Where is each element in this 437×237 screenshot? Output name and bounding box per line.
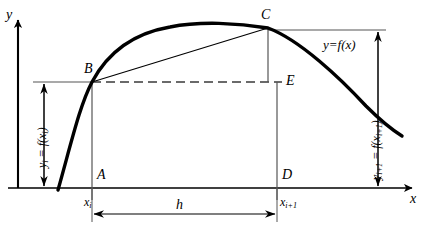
point-label-c: C: [261, 8, 270, 22]
y-axis-label: y: [6, 8, 12, 22]
chord-bc: [92, 28, 268, 82]
dimension-label-yi-tail: ): [35, 127, 49, 131]
curve-function-label: y=f(x): [323, 38, 356, 51]
dimension-label-yi-base: y: [35, 163, 49, 168]
tick-label-xi1-sub: i+1: [285, 201, 297, 210]
trapezoidal-rule-figure: y x B C A D E y=f(x) xi xi+1 h yi = f(xi…: [0, 0, 437, 237]
tick-label-xi: xi: [84, 196, 92, 210]
point-label-d: D: [282, 168, 292, 182]
dimension-label-yi1-tail: ): [369, 120, 383, 124]
dimension-label-yi1-sub: i+1: [375, 163, 384, 175]
dimension-label-yi-sub: i: [41, 160, 50, 162]
point-label-a: A: [97, 168, 106, 182]
dimension-label-yi1-sub2: i+1: [375, 124, 384, 136]
dimension-label-yi1-base: y: [369, 175, 383, 180]
tick-label-xi-sub: i: [89, 201, 91, 210]
point-label-b: B: [84, 62, 93, 76]
dimension-label-yi-rest: = f(x: [35, 134, 49, 161]
x-axis-label: x: [410, 192, 416, 206]
dimension-label-yi1: yi+1 = f(xi+1): [370, 120, 384, 180]
point-label-e: E: [286, 74, 295, 88]
dimension-label-h: h: [176, 198, 183, 212]
dimension-label-yi: yi = f(xi): [36, 127, 50, 168]
dimension-label-yi1-rest: = f(x: [369, 136, 383, 163]
diagram-canvas: [0, 0, 437, 237]
tick-label-xi1: xi+1: [280, 196, 297, 210]
dimension-label-yi-sub2: i: [41, 131, 50, 133]
